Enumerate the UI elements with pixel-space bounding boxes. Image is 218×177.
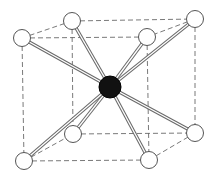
corner-atom-back-bottom-left [65,126,82,143]
corner-atom-front-bottom-left [16,153,33,170]
cube-edge-dashed-line [72,19,195,21]
center-atom [99,76,121,98]
bond-back-top-right [110,19,195,87]
corner-atom-back-top-right [187,11,204,28]
cube-edge-dashed-line [22,38,24,161]
cube-edge-dashed-line [24,160,149,161]
corner-atom-back-bottom-right [187,125,204,142]
corner-atom-front-bottom-right [141,152,158,169]
corner-atom-front-top-right [139,29,156,46]
cube-edge-dashed-line [22,37,147,38]
bcc-unit-cell-figure [0,0,218,177]
bcc-lattice-diagram [0,0,218,177]
bond-front-bottom-left [24,87,110,161]
corner-atom-front-top-left [14,30,31,47]
corner-atom-back-top-left [64,13,81,30]
